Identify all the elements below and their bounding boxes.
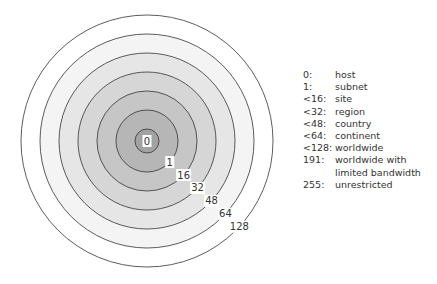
legend-item: <16:site xyxy=(303,93,437,105)
ring-label: 16 xyxy=(177,170,190,181)
legend-label: subnet xyxy=(335,81,437,93)
legend-label: host xyxy=(335,69,437,81)
legend-key: <16: xyxy=(303,93,335,105)
legend-item: <128:worldwide xyxy=(303,142,437,154)
legend-label: unrestricted xyxy=(335,179,437,191)
legend-key: 255: xyxy=(303,179,335,191)
legend-item: 191:worldwide with limited bandwidth xyxy=(303,154,437,178)
ring-label: 32 xyxy=(191,182,204,193)
legend-item: <48:country xyxy=(303,118,437,130)
legend-item: <64:continent xyxy=(303,130,437,142)
ring-label: 1 xyxy=(167,157,173,168)
legend-label: site xyxy=(335,93,437,105)
legend-key: 0: xyxy=(303,69,335,81)
legend-item: 255:unrestricted xyxy=(303,179,437,191)
legend-key: 1: xyxy=(303,81,335,93)
legend-label: continent xyxy=(335,130,437,142)
legend-key: <64: xyxy=(303,130,335,142)
legend-label: worldwide xyxy=(335,142,437,154)
ring-label: 64 xyxy=(219,208,232,219)
legend-label: worldwide with limited bandwidth xyxy=(335,154,437,178)
ring-label: 0 xyxy=(144,136,150,147)
legend-item: <32:region xyxy=(303,106,437,118)
legend-key: <48: xyxy=(303,118,335,130)
legend-key: <128: xyxy=(303,142,335,154)
legend: 0:host 1:subnet <16:site <32:region <48:… xyxy=(303,69,437,191)
legend-key: 191: xyxy=(303,154,335,178)
legend-item: 0:host xyxy=(303,69,437,81)
ring-label: 48 xyxy=(205,195,218,206)
legend-item: 1:subnet xyxy=(303,81,437,93)
legend-label: region xyxy=(335,106,437,118)
ring-label: 128 xyxy=(230,221,249,232)
ttl-scope-diagram: 1286448321610 xyxy=(0,0,300,284)
legend-label: country xyxy=(335,118,437,130)
legend-key: <32: xyxy=(303,106,335,118)
